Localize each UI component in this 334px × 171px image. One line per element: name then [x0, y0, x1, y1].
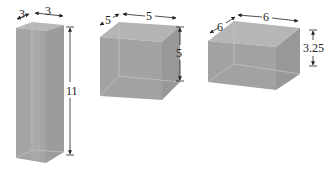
cube-height-label: 5	[176, 46, 182, 60]
short-box-depth-label: 6	[217, 20, 223, 34]
cube-depth-label: 5	[105, 13, 111, 27]
tall-box-height-label: 11	[66, 84, 78, 98]
cube-width-label: 5	[146, 9, 152, 23]
short-box: 6 6 3.25	[208, 10, 324, 90]
cube-front-face	[100, 37, 162, 100]
tall-box: 3 3 11	[16, 4, 78, 163]
cube: 5 5 5	[100, 9, 184, 100]
tall-box-right-face	[46, 25, 64, 163]
tall-box-left-face	[16, 28, 46, 163]
short-box-width-label: 6	[263, 10, 269, 24]
tall-box-depth-label: 3	[19, 7, 25, 21]
tall-box-width-label: 3	[45, 4, 51, 18]
boxes-diagram: 3 3 11 5 5 5	[0, 0, 334, 171]
short-box-height-label: 3.25	[303, 41, 324, 55]
